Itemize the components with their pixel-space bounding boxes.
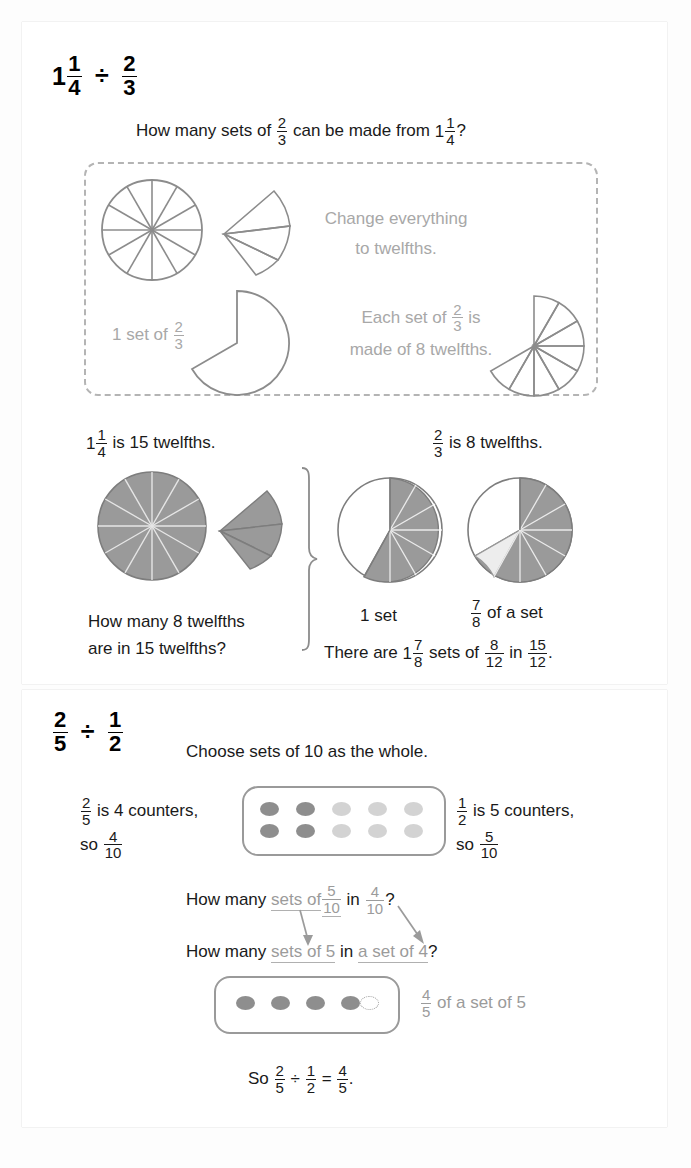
caption-seven-eighths-text: of a set (487, 603, 543, 622)
left-label-fraction: 25 (81, 795, 91, 827)
right-label-line-2: so 510 (456, 830, 574, 862)
conclusion-mid-1: sets of (429, 643, 479, 662)
counter-row-five (214, 976, 396, 1030)
final-period: . (349, 1069, 354, 1088)
hint2-line-2: made of 8 twelfths. (326, 334, 516, 365)
brace (296, 466, 320, 652)
left-label-text: is 4 counters, (97, 801, 198, 820)
heading-mixed-number: 114 (52, 54, 83, 100)
final-equals: = (322, 1069, 332, 1088)
section-one-conclusion: There are 178 sets of 812 in 1512. (324, 638, 553, 670)
four-fifths-text: of a set of 5 (437, 993, 526, 1012)
right-label-so: so (456, 835, 474, 854)
section-one-heading: 114 ÷ 23 (52, 54, 138, 100)
final-fraction-1: 25 (275, 1063, 285, 1095)
conclusion-mid-2: in (509, 643, 522, 662)
counter-light (404, 824, 423, 838)
counter-light (368, 824, 387, 838)
label-right-fraction: 23 (433, 427, 443, 459)
q1-fraction-four-tenths: 410 (366, 884, 385, 916)
conclusion-mixed-whole: 1 (402, 644, 411, 664)
wedge-shaded-three-twelfths (217, 490, 293, 572)
section-two-heading: 25 ÷ 12 (52, 710, 124, 756)
hint-each-set: Each set of 23 is made of 8 twelfths. (326, 302, 516, 366)
conclusion-mixed: 178 (402, 638, 424, 670)
question-mixed-fraction: 14 (445, 115, 455, 147)
hint-change-everything: Change everything to twelfths. (306, 204, 486, 264)
counter-empty (360, 996, 379, 1010)
label-left-mixed: 114 (86, 428, 108, 460)
label-left-text: is 15 twelfths. (113, 433, 216, 452)
counter-filled (306, 996, 325, 1010)
section-two-instruction: Choose sets of 10 as the whole. (186, 742, 428, 762)
brace-svg (296, 466, 320, 652)
label-left-whole: 1 (86, 434, 95, 454)
conclusion-mixed-fraction: 78 (413, 637, 423, 669)
pie-shaded-twelve-twelfths (96, 470, 208, 582)
q2-black-2: in (340, 942, 353, 961)
left-label-line-1: 25 is 4 counters, (80, 796, 198, 828)
left-label-line-2: so 410 (80, 830, 198, 862)
wedge-shaded-three-svg (217, 490, 293, 572)
right-label-fraction: 12 (457, 795, 467, 827)
pie-twelfths-svg (100, 178, 204, 282)
pie-seven-eighths-svg (466, 476, 574, 584)
question-mixed-number: 114 (435, 116, 457, 148)
section-one-question: How many sets of 23 can be made from 114… (136, 116, 466, 148)
counter-dark (296, 802, 315, 816)
counter-filled (236, 996, 255, 1010)
label-left-fraction: 14 (96, 427, 106, 459)
label-one-half-counters: 12 is 5 counters, so 510 (456, 796, 574, 861)
left-label-result-fraction: 410 (104, 829, 123, 861)
counter-light (332, 802, 351, 816)
pie-two-thirds-svg (182, 288, 292, 398)
counter-dark (260, 802, 279, 816)
caption-seven-eighths-fraction: 78 (471, 597, 481, 629)
q2-gray-sets-of-5: sets of 5 (271, 942, 335, 963)
final-so: So (248, 1069, 269, 1088)
pie-twelfths-outline (100, 178, 204, 282)
counter-dark (260, 824, 279, 838)
hint-line-2: to twelfths. (306, 234, 486, 264)
brace-question-line-2: are in 15 twelfths? (88, 635, 245, 662)
counter-light (332, 824, 351, 838)
hint2-line-1: Each set of 23 is (326, 302, 516, 334)
hint2-fraction: 23 (452, 302, 462, 334)
brace-question-line-1: How many 8 twelfths (88, 608, 245, 635)
label-two-fifths-counters: 25 is 4 counters, so 410 (80, 796, 198, 861)
counter-filled (341, 996, 360, 1010)
caption-one-set: 1 set (360, 606, 397, 626)
q2-end: ? (428, 942, 437, 961)
right-label-result-fraction: 510 (480, 829, 499, 861)
question-sets-of-whole-numbers: How many sets of 5 in a set of 4? (186, 942, 437, 962)
brace-question: How many 8 twelfths are in 15 twelfths? (88, 608, 245, 662)
counter-light (404, 802, 423, 816)
heading-operator: ÷ (90, 61, 114, 89)
heading-fraction: 14 (67, 53, 82, 99)
question-part-after: ? (456, 121, 465, 140)
fan-eight-twelfths-outline (496, 294, 596, 398)
conclusion-fraction-2: 1512 (528, 637, 547, 669)
hint2-after: is (468, 308, 480, 327)
heading-whole: 1 (52, 62, 66, 91)
label-one-set-text: 1 set of (112, 325, 168, 344)
counter-light (368, 802, 387, 816)
final-fraction-3: 45 (337, 1063, 347, 1095)
label-eight-twelfths: 23 is 8 twelfths. (432, 428, 543, 460)
q1-black-1: How many (186, 890, 266, 909)
pie-two-thirds-outline (182, 288, 292, 398)
fan-eight-twelfths-svg (496, 294, 596, 398)
four-fifths-fraction: 45 (421, 987, 431, 1019)
question-part-middle: can be made from (293, 121, 430, 140)
heading-divisor: 23 (122, 53, 137, 99)
wedge-three-twelfths-outline (220, 190, 300, 278)
hint-line-1: Change everything (306, 204, 486, 234)
question-part-before: How many sets of (136, 121, 271, 140)
conclusion-fraction-1: 812 (485, 637, 504, 669)
heading2-operator: ÷ (76, 717, 100, 745)
q2-black-1: How many (186, 942, 266, 961)
label-four-fifths-of-set: 45 of a set of 5 (420, 988, 526, 1020)
counter-filled (271, 996, 290, 1010)
right-label-line-1: 12 is 5 counters, (456, 796, 574, 828)
label-right-text: is 8 twelfths. (449, 433, 543, 452)
